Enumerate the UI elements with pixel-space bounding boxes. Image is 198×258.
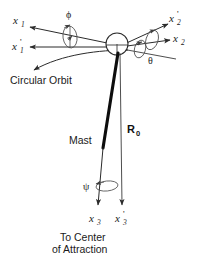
label-x1-subscript: 1 bbox=[21, 20, 25, 29]
label-x3-prime: x ' 3 bbox=[114, 209, 127, 227]
mast-line bbox=[103, 53, 118, 148]
label-to-center-line2: of Attraction bbox=[52, 243, 108, 255]
label-psi: ψ bbox=[83, 181, 90, 192]
label-x1-prime: x ' 1 bbox=[11, 37, 24, 55]
label-radius-vector: R 0 bbox=[127, 123, 140, 138]
label-x2p-base: x bbox=[168, 12, 174, 24]
label-x2-prime: x ' 2 bbox=[168, 9, 181, 27]
axis-x1 bbox=[30, 27, 112, 44]
label-x3-subscript: 3 bbox=[96, 218, 101, 227]
label-circular-orbit: Circular Orbit bbox=[10, 74, 72, 86]
label-x3p-base: x bbox=[114, 212, 120, 224]
label-x3: x 3 bbox=[88, 212, 101, 227]
axis-x3 bbox=[98, 148, 103, 205]
theta-rotation-indicator bbox=[132, 29, 160, 59]
label-x1: x 1 bbox=[12, 14, 25, 29]
label-x3p-subscript: 3 bbox=[122, 218, 127, 227]
label-x2-subscript: 2 bbox=[181, 38, 185, 47]
label-theta: θ bbox=[148, 55, 153, 66]
label-phi: ϕ bbox=[66, 9, 71, 20]
label-mast: Mast bbox=[69, 134, 92, 146]
label-x2p-subscript: 2 bbox=[177, 18, 181, 27]
label-x3-base: x bbox=[88, 212, 94, 224]
label-to-center-line1: To Center bbox=[60, 231, 106, 243]
attitude-diagram: x 1 x ' 1 x ' 2 x 2 ϕ θ Circular Orbit M… bbox=[0, 0, 198, 258]
label-R: R bbox=[127, 123, 135, 135]
satellite-body-icon bbox=[106, 33, 128, 55]
label-x1p-base: x bbox=[11, 40, 17, 52]
label-x2: x 2 bbox=[172, 32, 185, 47]
axis-x3-prime bbox=[120, 53, 122, 205]
label-x1-base: x bbox=[12, 14, 18, 26]
diagram-canvas: x 1 x ' 1 x ' 2 x 2 ϕ θ Circular Orbit M… bbox=[0, 0, 198, 258]
label-x1p-subscript: 1 bbox=[20, 46, 24, 55]
psi-rotation-indicator bbox=[96, 180, 119, 192]
label-R-subscript: 0 bbox=[136, 129, 140, 138]
label-x2-base: x bbox=[172, 32, 178, 44]
